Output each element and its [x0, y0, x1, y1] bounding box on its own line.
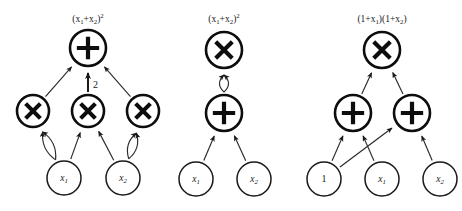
graph-edge [99, 131, 114, 160]
operator-node-plus[interactable] [70, 30, 106, 66]
graph-edge [393, 73, 403, 94]
graph-edge [362, 73, 372, 94]
graph-edge [224, 75, 229, 92]
operator-node-times[interactable] [72, 95, 104, 127]
panel-titles-layer: (x1​+x2​)2​(x1​+x2​)2​(1+x1​)(1+x2​) [72, 12, 406, 26]
figure-canvas: 2 x1​x2​x1​x2​1x1​x2​ (x1​+x2​)2​(x1​+x2… [0, 0, 462, 211]
panel-title: (x1​+x2​)2​ [208, 12, 240, 26]
graph-edge [220, 75, 225, 92]
operator-node-plus[interactable] [335, 95, 371, 131]
leaf-node[interactable]: x1​ [47, 161, 81, 195]
panel-title: (1+x1​)(1+x2​) [357, 14, 406, 25]
leaf-node[interactable]: x2​ [423, 162, 457, 196]
leaf-node[interactable]: x2​ [106, 161, 140, 195]
operator-node-times[interactable] [206, 32, 242, 68]
leaf-node-label: 1 [322, 173, 327, 184]
leaf-node[interactable]: 1 [307, 162, 341, 196]
nodes-layer: x1​x2​x1​x2​1x1​x2​ [17, 30, 457, 196]
graph-edge [45, 67, 71, 97]
graph-edge [204, 136, 214, 161]
panel-title: (x1​+x2​)2​ [72, 12, 104, 26]
operator-node-plus[interactable] [394, 95, 430, 131]
operator-node-times[interactable] [17, 95, 49, 127]
leaf-node[interactable]: x2​ [237, 162, 271, 196]
leaf-node[interactable]: x1​ [365, 162, 399, 196]
computation-graph-svg: 2 x1​x2​x1​x2​1x1​x2​ (x1​+x2​)2​(x1​+x2… [0, 0, 462, 211]
edge-weight-label: 2 [93, 79, 98, 90]
operator-node-plus[interactable] [206, 95, 242, 131]
graph-edge [422, 136, 432, 161]
leaf-node[interactable]: x1​ [179, 162, 213, 196]
graph-edge [340, 128, 392, 167]
operator-node-times[interactable] [364, 32, 400, 68]
graph-edge [332, 136, 343, 161]
graph-edge [234, 136, 245, 161]
operator-node-times[interactable] [127, 95, 159, 127]
edge-weights-layer: 2 [93, 79, 98, 90]
graph-edge [71, 133, 80, 160]
graph-edge [104, 67, 130, 97]
